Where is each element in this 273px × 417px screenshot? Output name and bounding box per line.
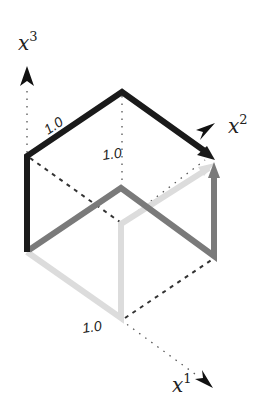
x1-label: x1: [172, 371, 192, 397]
unit-cube-diagram: x3 x2 x1 1.0 1.0 1.0: [0, 0, 273, 417]
x1-axis: [121, 320, 195, 374]
x3-arrowhead-icon: [20, 66, 34, 86]
x2-label: x2: [228, 112, 248, 138]
x2-arrowhead-icon: [196, 123, 215, 140]
x1-tick-label: 1.0: [81, 317, 103, 336]
x2-tick-label: 1.0: [101, 144, 123, 163]
x3-label: x3: [18, 29, 38, 55]
x1-arrowhead-icon: [195, 370, 213, 388]
